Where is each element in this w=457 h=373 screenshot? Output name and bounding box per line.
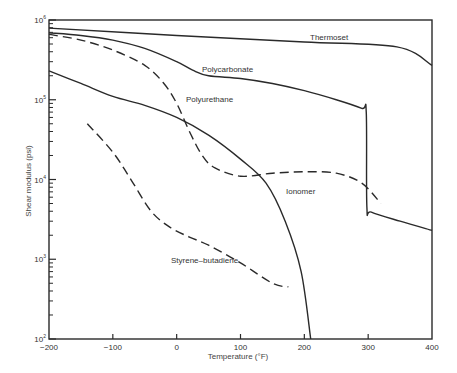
label-polycarbonate: Polycarbonate	[202, 65, 254, 74]
x-axis-ticks: −200−1000100200300400	[40, 334, 439, 352]
y-tick-label: 105	[34, 94, 46, 105]
shear-modulus-chart: 102103104105106 −200−1000100200300400 Th…	[0, 0, 457, 373]
y-tick-label: 106	[34, 14, 46, 25]
curve-polyurethane	[49, 34, 381, 203]
x-tick-label: 0	[174, 343, 179, 352]
y-tick-label: 104	[34, 174, 46, 185]
x-axis-title: Temperature (°F)	[208, 352, 269, 361]
curve-polycarbonate	[49, 33, 432, 231]
label-polyurethane: Polyurethane	[186, 95, 234, 104]
curve-thermoset	[49, 28, 432, 65]
y-axis-title: Shear modulus (psi)	[24, 145, 33, 217]
x-tick-label: −100	[104, 343, 123, 352]
label-thermoset: Thermoset	[310, 33, 349, 42]
y-tick-label: 103	[34, 253, 46, 264]
label-ionomer: Ionomer	[286, 187, 316, 196]
y-axis-ticks: 102103104105106	[34, 14, 56, 344]
x-tick-label: −200	[40, 343, 59, 352]
label-styrene-butadiene: Styrene–butadiene	[171, 256, 239, 265]
x-tick-label: 100	[234, 343, 248, 352]
x-tick-label: 300	[361, 343, 375, 352]
x-tick-label: 400	[425, 343, 439, 352]
x-tick-label: 200	[298, 343, 312, 352]
curves	[49, 28, 432, 339]
